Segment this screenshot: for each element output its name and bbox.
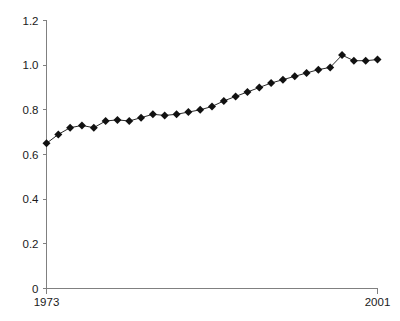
data-point-marker [243, 88, 251, 96]
y-tick-label: 0.2 [23, 238, 39, 250]
y-tick-label: 0.4 [23, 193, 40, 205]
data-point-marker [113, 116, 121, 124]
y-tick-label: 0 [32, 283, 38, 295]
data-point-marker [161, 111, 169, 119]
data-point-marker [78, 121, 86, 129]
data-point-marker [125, 117, 133, 125]
x-tick-label: 2001 [365, 296, 391, 308]
data-point-marker [102, 117, 110, 125]
x-tick-label: 1973 [34, 296, 60, 308]
data-point-marker [66, 124, 74, 132]
chart-plot-area: 00.20.40.60.81.01.2 19732001 [0, 0, 400, 321]
y-tick-label: 0.8 [23, 104, 39, 116]
data-series [43, 51, 382, 147]
data-point-marker [291, 72, 299, 80]
data-point-marker [184, 108, 192, 116]
line-chart: 00.20.40.60.81.01.2 19732001 [0, 0, 400, 321]
data-point-marker [196, 106, 204, 114]
y-tick-label: 1.2 [23, 15, 39, 27]
data-point-marker [267, 79, 275, 87]
data-point-marker [362, 57, 370, 65]
data-point-marker [279, 76, 287, 84]
data-point-marker [149, 110, 157, 118]
data-point-marker [43, 139, 51, 147]
y-tick-label: 0.6 [23, 149, 39, 161]
data-point-marker [255, 84, 263, 92]
data-point-marker [90, 124, 98, 132]
data-point-marker [137, 114, 145, 122]
data-point-marker [54, 130, 62, 138]
data-point-marker [208, 102, 216, 110]
data-point-marker [350, 57, 358, 65]
x-axis: 19732001 [34, 289, 391, 308]
y-axis: 00.20.40.60.81.01.2 [23, 15, 47, 295]
data-point-marker [232, 92, 240, 100]
data-point-marker [173, 110, 181, 118]
data-point-marker [374, 56, 382, 64]
data-point-marker [314, 66, 322, 74]
y-tick-label: 1.0 [23, 59, 39, 71]
data-point-marker [303, 69, 311, 77]
data-point-marker [220, 97, 228, 105]
